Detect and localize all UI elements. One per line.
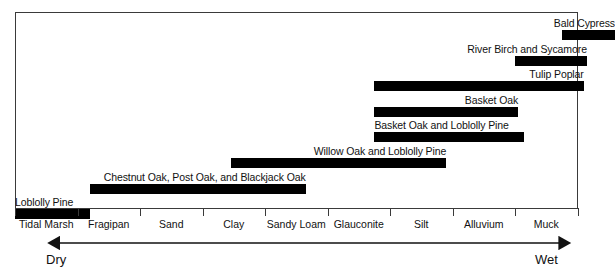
category-label: Silt xyxy=(390,218,453,231)
category-label: Muck xyxy=(515,218,578,231)
bar-rect xyxy=(231,158,447,168)
bar-group: Tulip Poplar xyxy=(374,65,583,91)
gradient-arrow-svg xyxy=(0,234,599,278)
bar-rect xyxy=(90,184,306,194)
category-label: Sand xyxy=(140,218,203,231)
bar-group: Bald Cypress xyxy=(562,14,615,40)
category-label: Clay xyxy=(203,218,266,231)
axis-tick xyxy=(453,208,454,216)
axis-tick xyxy=(140,208,141,216)
dry-wet-gradient-arrow: Dry Wet xyxy=(0,234,599,278)
category-label: Fragipan xyxy=(78,218,141,231)
category-label: Alluvium xyxy=(453,218,516,231)
bar-label: Willow Oak and Loblolly Pine xyxy=(314,145,447,157)
bar-label: Bald Cypress xyxy=(554,17,615,29)
bar-label: Basket Oak and Loblolly Pine xyxy=(374,119,508,131)
category-label: Sandy Loam xyxy=(265,218,328,231)
axis-tick xyxy=(78,208,79,216)
axis-tick xyxy=(203,208,204,216)
axis-tick xyxy=(15,208,16,216)
bar-label: Basket Oak xyxy=(465,94,518,106)
bar-group: Loblolly Pine xyxy=(15,193,90,219)
bar-rect xyxy=(374,132,524,142)
axis-tick xyxy=(578,208,579,216)
wet-label: Wet xyxy=(535,252,558,268)
category-label: Glauconite xyxy=(328,218,391,231)
x-axis-line xyxy=(15,208,578,209)
bar-group: Basket Oak xyxy=(374,91,518,117)
axis-tick xyxy=(390,208,391,216)
bar-rect xyxy=(374,81,583,91)
axis-tick xyxy=(265,208,266,216)
bar-group: River Birch and Sycamore xyxy=(515,40,587,66)
bar-label: Loblolly Pine xyxy=(15,196,73,208)
bar-group: Willow Oak and Loblolly Pine xyxy=(231,142,447,168)
bar-rect xyxy=(562,30,615,40)
bar-rect xyxy=(374,107,518,117)
bar-label: Tulip Poplar xyxy=(529,68,583,80)
bar-label: Chestnut Oak, Post Oak, and Blackjack Oa… xyxy=(104,171,306,183)
dry-label: Dry xyxy=(46,252,66,268)
bar-rect xyxy=(515,56,587,66)
bars-layer: Bald CypressRiver Birch and SycamoreTuli… xyxy=(0,0,599,210)
axis-tick xyxy=(328,208,329,216)
bar-label: River Birch and Sycamore xyxy=(467,43,587,55)
bar-group: Chestnut Oak, Post Oak, and Blackjack Oa… xyxy=(90,168,306,194)
bar-group: Basket Oak and Loblolly Pine xyxy=(374,116,524,142)
category-label: Tidal Marsh xyxy=(15,218,78,231)
axis-tick xyxy=(515,208,516,216)
